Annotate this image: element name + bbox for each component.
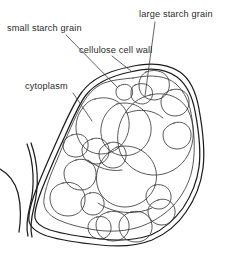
starch-grain xyxy=(163,122,191,149)
label-large-starch-grain: large starch grain xyxy=(139,9,213,19)
starch-grain-cluster xyxy=(50,70,193,242)
label-small-starch-grain: small starch grain xyxy=(7,23,82,33)
small-starch-grain xyxy=(63,134,88,157)
starch-grain xyxy=(50,182,85,216)
small-starch-grain xyxy=(148,199,175,225)
diagram-canvas: small starch grain cellulose cell wall l… xyxy=(0,0,228,256)
label-cellulose-cell-wall: cellulose cell wall xyxy=(79,45,152,55)
starch-grain xyxy=(139,70,169,100)
large-starch-grain xyxy=(118,94,194,175)
leader-large-starch-grain xyxy=(145,22,155,96)
small-starch-grain xyxy=(116,84,133,100)
small-starch-grain xyxy=(146,185,171,209)
starch-grain xyxy=(161,89,189,116)
small-starch-grain xyxy=(119,211,152,242)
large-starch-grain xyxy=(76,98,129,154)
leader-small-starch-grain xyxy=(66,35,118,88)
starch-grain xyxy=(64,159,96,190)
plant-cell-diagram: small starch grain cellulose cell wall l… xyxy=(0,0,228,256)
grain-packing-arc xyxy=(98,203,152,213)
neighbouring-cell-wall xyxy=(0,143,37,237)
label-cytoplasm: cytoplasm xyxy=(25,81,68,91)
